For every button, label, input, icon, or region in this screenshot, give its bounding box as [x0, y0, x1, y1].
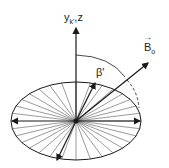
axis-label: yk',z	[64, 12, 83, 25]
vector-arrow-glyph: →	[144, 34, 152, 42]
field-sub-text: o	[151, 48, 155, 55]
precession-diagram	[0, 0, 169, 168]
field-label: → Bo	[144, 42, 155, 55]
angle-label: β'	[96, 67, 104, 78]
dashed-arc	[127, 80, 139, 108]
axis-z-text: z	[77, 11, 83, 23]
origin-dot	[74, 119, 79, 124]
